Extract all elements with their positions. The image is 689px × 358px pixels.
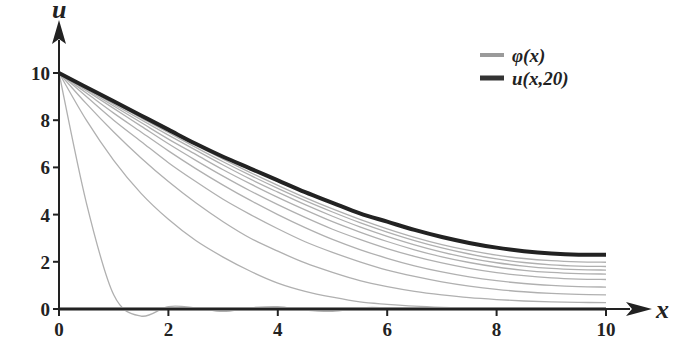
x-tick-label: 6	[382, 319, 392, 340]
x-ticks: 0246810	[54, 309, 615, 340]
plot-curves	[59, 73, 606, 316]
x-tick-label: 4	[273, 319, 283, 340]
curve-u-x-18	[59, 73, 606, 262]
curve-u-x-2	[59, 73, 606, 309]
x-tick-label: 2	[164, 319, 174, 340]
curve-u-x-20	[59, 73, 606, 255]
curve-u-x-14	[59, 73, 606, 270]
y-tick-label: 8	[41, 110, 51, 131]
legend-label-u20: u(x,20)	[512, 68, 568, 90]
y-tick-label: 6	[41, 157, 51, 178]
chart: u x 0246810 0246810 φ(x) u(x,20)	[0, 0, 689, 358]
curve-u-x-6	[59, 73, 606, 295]
y-axis-label: u	[52, 0, 66, 24]
x-tick-label: 10	[597, 319, 616, 340]
x-tick-label: 8	[492, 319, 502, 340]
legend-label-phi: φ(x)	[512, 45, 545, 67]
x-tick-label: 0	[54, 319, 64, 340]
curve-u-x-16	[59, 73, 606, 267]
y-ticks: 0246810	[31, 63, 59, 320]
curve-u-x-8	[59, 73, 606, 287]
curve-u-x-1	[59, 73, 606, 316]
curve-u-x-10	[59, 73, 606, 280]
y-tick-label: 4	[41, 205, 51, 226]
y-tick-label: 10	[31, 63, 50, 84]
curve-u-x-12	[59, 73, 606, 274]
curve-u-x-4	[59, 73, 606, 303]
y-tick-label: 0	[41, 299, 51, 320]
legend: φ(x) u(x,20)	[480, 45, 568, 90]
x-axis-label: x	[655, 295, 669, 324]
y-tick-label: 2	[41, 252, 51, 273]
